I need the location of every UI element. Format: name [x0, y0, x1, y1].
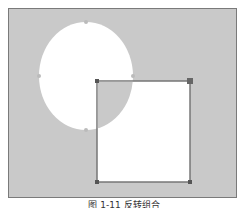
figure-caption: 图 1-11 反转组合	[0, 200, 248, 208]
shape-canvas	[0, 0, 248, 208]
